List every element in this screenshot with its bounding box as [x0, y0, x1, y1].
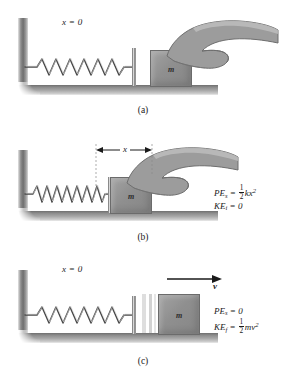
spring-compressed-b — [25, 183, 109, 205]
spring-endplate-c — [132, 296, 136, 334]
panel-caption-b: (b) — [123, 232, 163, 242]
spring-endplate-a — [132, 48, 136, 86]
block-c: m — [158, 294, 200, 335]
ground-fade-a — [14, 82, 40, 98]
block-mass-label-c: m — [159, 310, 199, 319]
panel-b: m x PEs = 1 — [0, 122, 287, 250]
equation-initial-ke-b: KEi = 0 — [214, 200, 256, 213]
panel-caption-c: (c) — [123, 356, 163, 366]
equations-b: PEs = 1 2 kx2 KEi = 0 — [214, 184, 256, 213]
hand-a — [160, 19, 280, 75]
equation-spring-pe-c: PEs = 0 — [214, 305, 258, 318]
panel-a: m x = 0 (a) — [0, 0, 287, 125]
panel-c: m v x = 0 PEs = 0 KEf = 1 2 mv2 (c) — [0, 248, 287, 376]
motion-streak-3-c — [154, 294, 156, 333]
equations-c: PEs = 0 KEf = 1 2 mv2 — [214, 305, 258, 334]
velocity-label-c: v — [213, 281, 217, 291]
dimension-line-x-b: x — [95, 144, 155, 156]
origin-label-c: x = 0 — [62, 264, 83, 274]
spring-relaxed-a — [25, 56, 133, 78]
one-half-fraction-b: 1 2 — [239, 184, 244, 200]
spring-relaxed-c — [25, 304, 133, 326]
motion-streak-1-c — [142, 294, 146, 333]
equation-spring-pe-b: PEs = 1 2 kx2 — [214, 184, 256, 200]
dimension-label-x: x — [120, 144, 130, 154]
panel-caption-a: (a) — [123, 105, 163, 115]
ground-fade-b — [14, 208, 40, 224]
one-half-fraction-c: 1 2 — [239, 318, 244, 334]
wall-a — [18, 18, 28, 92]
origin-label-a: x = 0 — [62, 17, 83, 27]
ground-fade-c — [14, 330, 40, 346]
equation-final-ke-c: KEf = 1 2 mv2 — [214, 318, 258, 334]
scene-a: m x = 0 — [0, 0, 287, 100]
motion-streak-2-c — [149, 294, 152, 333]
